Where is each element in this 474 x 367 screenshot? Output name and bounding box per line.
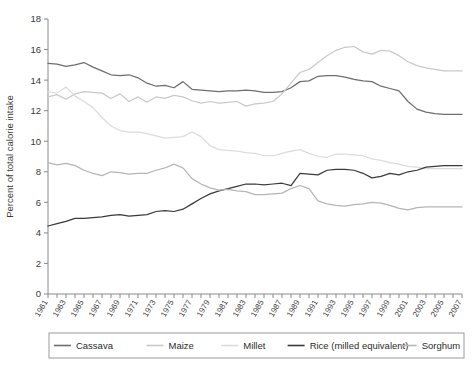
line-chart: 024681012141618Percent of total calorie … bbox=[0, 0, 474, 367]
x-tick-label: 1987 bbox=[267, 298, 284, 318]
legend-label-cassava[interactable]: Cassava bbox=[76, 340, 114, 351]
x-tick-label: 1993 bbox=[321, 298, 338, 318]
y-tick-label: 8 bbox=[36, 166, 41, 177]
series-line-millet bbox=[48, 87, 462, 169]
y-tick-label: 0 bbox=[36, 288, 41, 299]
legend-label-millet[interactable]: Millet bbox=[243, 340, 266, 351]
x-tick-label: 1997 bbox=[357, 298, 374, 318]
x-tick-label: 1985 bbox=[249, 298, 266, 318]
x-tick-label: 1971 bbox=[123, 298, 140, 318]
x-tick-label: 1975 bbox=[159, 298, 176, 318]
x-tick-label: 1961 bbox=[33, 298, 50, 318]
x-tick-label: 2003 bbox=[411, 298, 428, 318]
x-tick-label: 1983 bbox=[231, 298, 248, 318]
series-line-maize bbox=[48, 47, 462, 107]
x-tick-label: 2007 bbox=[447, 298, 464, 318]
x-tick-label: 1991 bbox=[303, 298, 320, 318]
series-line-cassava bbox=[48, 63, 462, 115]
x-tick-label: 1965 bbox=[69, 298, 86, 318]
y-tick-label: 14 bbox=[30, 75, 41, 86]
x-tick-label: 1963 bbox=[51, 298, 68, 318]
y-tick-label: 16 bbox=[30, 44, 41, 55]
y-axis-title: Percent of total calorie intake bbox=[4, 95, 15, 218]
x-tick-label: 1967 bbox=[87, 298, 104, 318]
x-tick-label: 1981 bbox=[213, 298, 230, 318]
chart-canvas: 024681012141618Percent of total calorie … bbox=[0, 0, 474, 367]
x-tick-label: 1995 bbox=[339, 298, 356, 318]
x-tick-label: 1973 bbox=[141, 298, 158, 318]
x-tick-label: 2005 bbox=[429, 298, 446, 318]
series-line-sorghum bbox=[48, 163, 462, 210]
y-tick-label: 12 bbox=[30, 105, 41, 116]
x-tick-label: 2001 bbox=[393, 298, 410, 318]
x-tick-label: 1999 bbox=[375, 298, 392, 318]
y-tick-label: 2 bbox=[36, 258, 41, 269]
y-tick-label: 4 bbox=[36, 227, 41, 238]
y-tick-label: 6 bbox=[36, 197, 41, 208]
series-line-rice-milled-equivalent bbox=[48, 166, 462, 226]
legend-label-sorghum[interactable]: Sorghum bbox=[422, 340, 461, 351]
y-tick-label: 10 bbox=[30, 136, 41, 147]
x-tick-label: 1989 bbox=[285, 298, 302, 318]
x-tick-label: 1977 bbox=[177, 298, 194, 318]
legend-label-rice-milled-equivalent[interactable]: Rice (milled equivalent) bbox=[310, 340, 409, 351]
legend-label-maize[interactable]: Maize bbox=[169, 340, 194, 351]
y-tick-label: 18 bbox=[30, 13, 41, 24]
x-tick-label: 1969 bbox=[105, 298, 122, 318]
x-tick-label: 1979 bbox=[195, 298, 212, 318]
